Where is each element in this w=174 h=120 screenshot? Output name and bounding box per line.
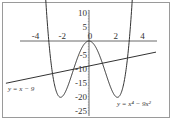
- y-tick-label: -5: [80, 50, 88, 60]
- x-tick-label: -2: [58, 31, 66, 41]
- x-tick-label: 0: [88, 31, 93, 41]
- y-tick-label: -15: [75, 78, 87, 88]
- y-tick-label: -25: [75, 106, 87, 116]
- quartic-label: y = x⁴ − 9x²: [116, 100, 152, 108]
- x-tick-label: 4: [140, 31, 145, 41]
- y-tick-label: 10: [78, 8, 88, 18]
- x-tick-label: -4: [32, 31, 40, 41]
- x-tick-label: 2: [114, 31, 119, 41]
- y-tick-label: -10: [75, 64, 87, 74]
- y-tick-label: 5: [83, 22, 88, 32]
- function-plot: -4-2024105-5-10-15-20-25 y = x − 9 y = x…: [0, 0, 174, 120]
- line-label: y = x − 9: [7, 85, 35, 93]
- y-tick-label: -20: [75, 92, 87, 102]
